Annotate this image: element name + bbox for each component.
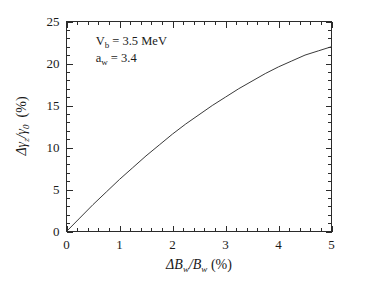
- y-tick-label: 15: [47, 98, 60, 113]
- y-tick-label: 20: [47, 56, 60, 71]
- annotation-value: = 3.5 MeV: [109, 34, 167, 48]
- y-tick-label: 10: [47, 140, 60, 155]
- y-label-delta: Δ: [14, 147, 29, 156]
- svg-text:ΔBw/Bw (%): ΔBw/Bw (%): [165, 257, 232, 274]
- y-label-unit-text: (%): [14, 96, 30, 117]
- annotation-value: = 3.4: [108, 51, 138, 65]
- x-tick-label: 4: [275, 237, 282, 252]
- y-tick-label: 0: [53, 224, 60, 239]
- x-tick-label: 5: [328, 237, 335, 252]
- y-label-unit: [14, 117, 29, 124]
- y-tick-label: 25: [47, 14, 60, 29]
- annotation-symbol: V: [96, 34, 105, 48]
- x-label-delta: Δ: [165, 257, 174, 272]
- x-tick-label: 1: [116, 237, 123, 252]
- x-tick-label: 3: [222, 237, 229, 252]
- figure-container: 012345 0510152025 Δγz/γ0 (%) ΔBw/Bw (%) …: [0, 0, 375, 286]
- x-tick-label: 0: [63, 237, 70, 252]
- y-tick-label: 5: [53, 182, 60, 197]
- x-label-unit-text: (%): [211, 257, 232, 273]
- x-tick-label: 2: [169, 237, 176, 252]
- line-chart: 012345 0510152025 Δγz/γ0 (%) ΔBw/Bw (%) …: [0, 0, 375, 286]
- x-axis-label: ΔBw/Bw (%): [165, 257, 232, 274]
